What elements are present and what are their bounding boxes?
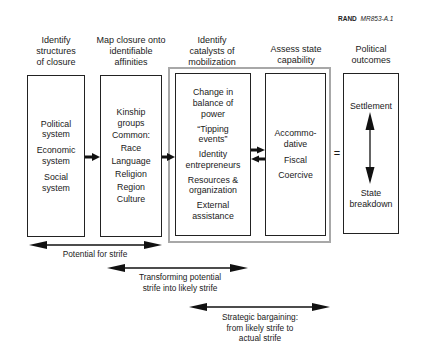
span-label-transforming-strife: Transforming potential strife into likel… [120, 272, 240, 293]
span-label-potential-for-strife: Potential for strife [40, 249, 150, 260]
vertical-double-arrow-icon [366, 112, 375, 184]
span-label-strategic-bargaining: Strategic bargaining: from likely strife… [205, 312, 315, 344]
arrow-left-icon [251, 156, 265, 163]
span-arrow-strategic-bargaining [189, 303, 330, 311]
label-line: Strategic bargaining: [205, 312, 315, 323]
span-arrow-potential-for-strife [29, 241, 162, 249]
label-line: Transforming potential [120, 272, 240, 283]
label-line: from likely strife to [205, 323, 315, 334]
arrow-right-icon [85, 153, 100, 161]
span-arrow-transforming-strife [107, 264, 248, 272]
label-line: strife into likely strife [120, 283, 240, 294]
arrows-layer [0, 0, 425, 363]
arrow-right-icon [162, 153, 175, 161]
label-line: Potential for strife [40, 249, 150, 260]
arrow-right-icon [251, 147, 265, 154]
label-line: actual strife [205, 333, 315, 344]
